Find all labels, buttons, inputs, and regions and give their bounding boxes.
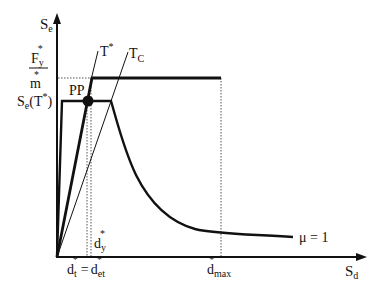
demand-spectrum-mu1 (57, 101, 293, 257)
tc-period-line (57, 52, 128, 257)
x-axis-label: Sd (345, 263, 358, 281)
t-star-period-line (91, 51, 98, 80)
y-axis-label: Se (40, 16, 53, 34)
t-star-label: T* (100, 41, 114, 59)
fy-numerator-label: Fy* (31, 43, 44, 68)
se-tstar-label: Se(T*) (17, 91, 52, 111)
fy-denominator-label: m* (30, 69, 41, 91)
pp-label: PP (69, 83, 85, 98)
y-axis-arrow-icon (53, 13, 61, 24)
mu-label: μ = 1 (299, 230, 328, 245)
dy-label: dy* (94, 228, 106, 253)
capacity-spectrum-diagram: Se Fy* m* Se(T*) PP T* TC dy* dt*=det* d… (0, 0, 380, 294)
labels: Se Fy* m* Se(T*) PP T* TC dy* dt*=det* d… (17, 16, 358, 281)
x-axis-arrow-icon (356, 253, 367, 261)
tc-label: TC (129, 46, 145, 64)
